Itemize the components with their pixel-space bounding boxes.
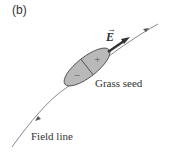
field-diagram: + − [0,0,170,161]
vector-arrow-accent: → [107,24,116,34]
svg-text:+: + [94,53,100,65]
figure-root: + − (b) → E Grass seed Field line [0,0,170,161]
line-label: Field line [31,130,73,142]
vector-label: → E [106,30,114,45]
seed-label: Grass seed [95,77,142,89]
svg-text:−: − [74,69,80,81]
panel-label: (b) [12,3,27,17]
